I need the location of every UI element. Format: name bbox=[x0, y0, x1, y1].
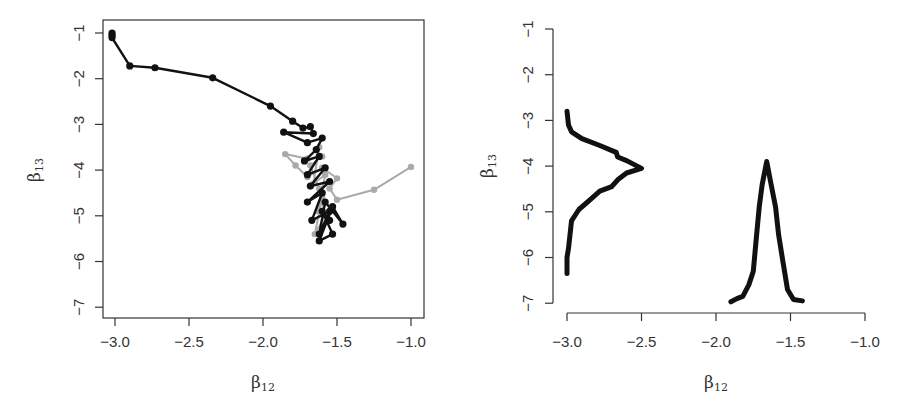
x-tick-label: −3.0 bbox=[100, 333, 130, 350]
plot-box bbox=[103, 20, 424, 318]
x-tick-label: −3.0 bbox=[552, 333, 582, 350]
y-axis-ticks: −1−2−3−4−5−6−7 bbox=[70, 24, 103, 315]
trace-point bbox=[334, 175, 340, 181]
y-tick-label: −5 bbox=[519, 203, 536, 220]
x-axis-ticks: −3.0−2.5−2.0−1.5−1.0 bbox=[552, 313, 880, 350]
trace-point bbox=[280, 129, 287, 136]
y-tick-label: −1 bbox=[519, 20, 536, 37]
trace-point bbox=[329, 230, 336, 237]
x-tick-label: −1.0 bbox=[396, 333, 426, 350]
trace-point bbox=[108, 34, 115, 41]
y-tick-label: −6 bbox=[519, 249, 536, 266]
trace-point bbox=[408, 164, 414, 170]
trace-point bbox=[371, 187, 377, 193]
y-tick-label: −4 bbox=[70, 162, 87, 179]
trace-point bbox=[326, 217, 333, 224]
y-tick-label: −2 bbox=[70, 70, 87, 87]
y-tick-label: −3 bbox=[519, 112, 536, 129]
density-plot-panel: −3.0−2.5−2.0−1.5−1.0 −1−2−3−4−5−6−7 β12 … bbox=[477, 20, 880, 394]
trace-point bbox=[299, 124, 306, 131]
x-tick-label: −2.5 bbox=[174, 333, 204, 350]
y-tick-label: −5 bbox=[70, 207, 87, 224]
trace-point bbox=[307, 182, 314, 189]
trace-point bbox=[313, 146, 320, 153]
trace-point bbox=[316, 230, 323, 237]
trace-point bbox=[301, 157, 308, 164]
trace-point bbox=[319, 208, 326, 215]
trace-point bbox=[292, 162, 298, 168]
y-tick-label: −3 bbox=[70, 116, 87, 133]
trace-plot-panel: −3.0−2.5−2.0−1.5−1.0 −1−2−3−4−5−6−7 β12 … bbox=[24, 20, 426, 394]
trace-point bbox=[304, 171, 311, 178]
y-tick-label: −7 bbox=[70, 299, 87, 316]
y-axis-title: β13 bbox=[24, 158, 46, 182]
trace-point bbox=[304, 139, 311, 146]
trace-point bbox=[326, 178, 333, 185]
trace-point bbox=[209, 74, 216, 81]
trace-point bbox=[334, 197, 340, 203]
trace-point bbox=[319, 135, 326, 142]
x-axis-title: β12 bbox=[704, 372, 728, 394]
y-tick-label: −2 bbox=[519, 66, 536, 83]
x-axis-title: β12 bbox=[251, 372, 275, 394]
x-tick-label: −2.0 bbox=[701, 333, 731, 350]
x-tick-label: −1.5 bbox=[322, 333, 352, 350]
trace-point bbox=[310, 130, 317, 137]
x-tick-label: −1.0 bbox=[850, 333, 880, 350]
trace-point bbox=[289, 118, 296, 125]
x-axis-ticks: −3.0−2.5−2.0−1.5−1.0 bbox=[100, 318, 426, 350]
trace-point bbox=[126, 62, 133, 69]
y-axis-ticks: −1−2−3−4−5−6−7 bbox=[519, 20, 553, 311]
x-tick-label: −2.0 bbox=[248, 333, 278, 350]
y-tick-label: −7 bbox=[519, 295, 536, 312]
density-beta12 bbox=[731, 162, 803, 302]
x-tick-label: −2.5 bbox=[627, 333, 657, 350]
chain-traces bbox=[108, 29, 414, 244]
density-beta13 bbox=[567, 111, 642, 273]
y-tick-label: −1 bbox=[70, 24, 87, 41]
trace-point bbox=[307, 123, 314, 130]
trace-point bbox=[304, 198, 311, 205]
chain-black bbox=[108, 29, 346, 244]
trace-point bbox=[339, 220, 346, 227]
x-tick-label: −1.5 bbox=[776, 333, 806, 350]
y-tick-label: −4 bbox=[519, 158, 536, 175]
trace-point bbox=[319, 189, 326, 196]
trace-point bbox=[282, 151, 288, 157]
y-tick-label: −6 bbox=[70, 253, 87, 270]
trace-point bbox=[329, 203, 336, 210]
trace-point bbox=[267, 103, 274, 110]
trace-point bbox=[316, 237, 323, 244]
figure: −3.0−2.5−2.0−1.5−1.0 −1−2−3−4−5−6−7 β12 … bbox=[0, 0, 903, 413]
trace-point bbox=[322, 198, 329, 205]
chain-gray bbox=[282, 144, 414, 237]
trace-point bbox=[316, 153, 323, 160]
density-curves bbox=[567, 111, 802, 301]
trace-point bbox=[326, 185, 332, 191]
trace-point bbox=[322, 164, 329, 171]
trace-point bbox=[308, 217, 315, 224]
y-axis-title: β13 bbox=[477, 154, 499, 178]
trace-point bbox=[151, 64, 158, 71]
